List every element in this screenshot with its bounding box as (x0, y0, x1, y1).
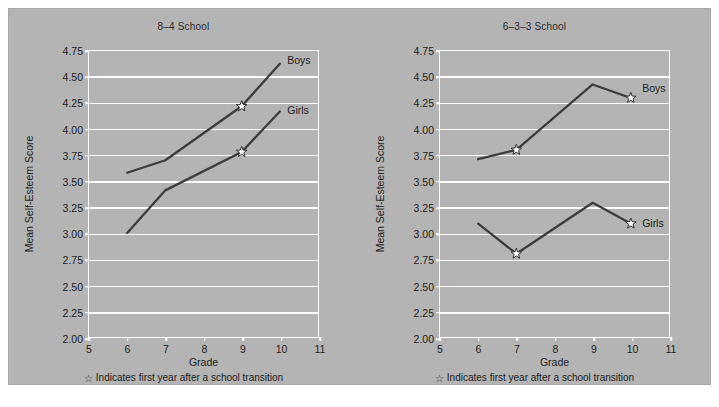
y-tick-label: 4.75 (414, 45, 440, 57)
x-tick-mark (319, 337, 321, 341)
x-tick-label: 10 (627, 343, 639, 355)
y-tick-label: 3.00 (414, 228, 440, 240)
series-label-boys: Boys (642, 82, 665, 94)
x-tick-mark (593, 337, 595, 341)
series-label-girls: Girls (642, 217, 664, 229)
x-tick-mark (555, 337, 557, 341)
series-line-girls (127, 111, 280, 232)
series-layer (89, 51, 318, 337)
plot-area: 2.002.252.502.753.003.253.503.754.004.25… (88, 50, 319, 338)
footnote-text: Indicates first year after a school tran… (447, 372, 634, 383)
figure-canvas: 8–4 School Mean Self-Esteem Score 2.002.… (8, 8, 711, 385)
y-tick-label: 2.25 (414, 307, 440, 319)
y-tick-label: 3.50 (63, 176, 89, 188)
x-tick-label: 6 (125, 343, 131, 355)
y-tick-label: 3.25 (414, 202, 440, 214)
y-tick-label: 3.50 (414, 176, 440, 188)
x-tick-mark (88, 337, 90, 341)
y-tick-label: 4.75 (63, 45, 89, 57)
y-tick-label: 2.50 (63, 281, 89, 293)
x-tick-label: 11 (315, 343, 326, 355)
y-tick-label: 3.25 (63, 202, 89, 214)
y-tick-label: 2.75 (414, 254, 440, 266)
chart-panel-8-4-school: 8–4 School Mean Self-Esteem Score 2.002.… (8, 8, 359, 385)
y-tick-label: 2.50 (414, 281, 440, 293)
panel-title: 6–3–3 School (359, 21, 710, 32)
x-tick-label: 7 (514, 343, 520, 355)
x-tick-mark (165, 337, 167, 341)
panel-title: 8–4 School (8, 21, 359, 32)
x-tick-label: 9 (591, 343, 597, 355)
x-tick-mark (281, 337, 283, 341)
series-layer (440, 51, 669, 337)
series-label-boys: Boys (287, 54, 310, 66)
series-line-boys (127, 64, 280, 173)
star-icon: ☆ (84, 373, 93, 384)
series-label-girls: Girls (287, 104, 309, 116)
series-line-girls (478, 203, 631, 254)
transition-footnote: ☆Indicates first year after a school tra… (359, 372, 710, 383)
y-tick-label: 3.00 (63, 228, 89, 240)
y-axis-label: Mean Self-Esteem Score (373, 50, 387, 338)
x-tick-label: 7 (163, 343, 169, 355)
transition-star-marker (626, 218, 637, 228)
x-tick-mark (632, 337, 634, 341)
y-tick-label: 4.25 (414, 97, 440, 109)
y-tick-label: 4.00 (414, 124, 440, 136)
transition-star-marker (626, 92, 637, 102)
y-tick-label: 4.50 (414, 71, 440, 83)
x-tick-mark (478, 337, 480, 341)
x-axis-label: Grade (88, 356, 319, 368)
x-tick-label: 11 (666, 343, 677, 355)
x-tick-mark (516, 337, 518, 341)
y-tick-label: 2.00 (63, 333, 89, 345)
x-tick-label: 5 (86, 343, 92, 355)
x-tick-label: 10 (276, 343, 288, 355)
x-tick-mark (670, 337, 672, 341)
x-tick-mark (242, 337, 244, 341)
star-icon: ☆ (435, 373, 444, 384)
footnote-text: Indicates first year after a school tran… (96, 372, 283, 383)
y-tick-label: 2.25 (63, 307, 89, 319)
x-tick-mark (439, 337, 441, 341)
x-tick-label: 5 (437, 343, 443, 355)
x-tick-mark (204, 337, 206, 341)
y-tick-label: 2.00 (414, 333, 440, 345)
y-tick-label: 4.25 (63, 97, 89, 109)
y-tick-label: 4.00 (63, 124, 89, 136)
x-tick-label: 6 (476, 343, 482, 355)
figure-root: 8–4 School Mean Self-Esteem Score 2.002.… (0, 0, 719, 407)
x-tick-label: 8 (202, 343, 208, 355)
y-axis-label: Mean Self-Esteem Score (22, 50, 36, 338)
plot-area: 2.002.252.502.753.003.253.503.754.004.25… (439, 50, 670, 338)
transition-footnote: ☆Indicates first year after a school tra… (8, 372, 359, 383)
y-tick-label: 3.75 (63, 150, 89, 162)
y-tick-label: 3.75 (414, 150, 440, 162)
x-tick-label: 9 (240, 343, 246, 355)
x-tick-mark (127, 337, 129, 341)
series-line-boys (478, 84, 631, 159)
y-tick-label: 4.50 (63, 71, 89, 83)
x-tick-label: 8 (553, 343, 559, 355)
chart-panel-6-3-3-school: 6–3–3 School Mean Self-Esteem Score 2.00… (359, 8, 710, 385)
y-tick-label: 2.75 (63, 254, 89, 266)
x-axis-label: Grade (439, 356, 670, 368)
